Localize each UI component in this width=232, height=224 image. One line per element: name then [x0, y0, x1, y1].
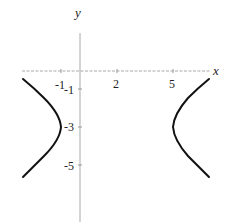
y-tick-label: -3 — [64, 120, 74, 134]
y-tick-label: -5 — [64, 159, 74, 173]
x-axis-label: x — [212, 63, 219, 78]
x-tick-label: 2 — [113, 77, 119, 91]
y-axis-label: y — [73, 5, 81, 20]
x-tick-label: 5 — [169, 77, 175, 91]
hyperbola-chart: y x -1 2 5 -1 -3 -5 — [0, 0, 232, 224]
right-branch-curve — [173, 79, 209, 177]
y-tick-label: -1 — [64, 83, 74, 97]
left-branch-curve — [23, 79, 61, 177]
